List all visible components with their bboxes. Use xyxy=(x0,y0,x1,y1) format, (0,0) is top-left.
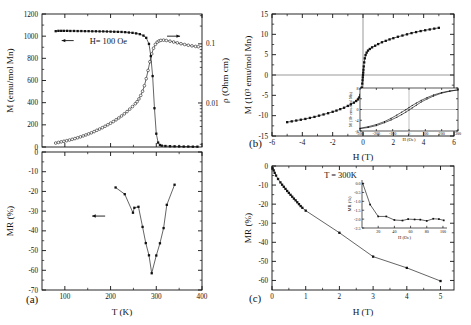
panel-a-label: (a) xyxy=(26,293,39,306)
m-vs-t-point xyxy=(117,31,119,33)
m-vs-h-point xyxy=(369,48,371,50)
panel-b-inset-point xyxy=(360,128,361,129)
rho-vs-t-point xyxy=(74,137,77,140)
panel-c-inset-ytick-label: -2.0 xyxy=(354,217,360,222)
mr-vs-h-point xyxy=(406,267,408,269)
rho-vs-t-point xyxy=(143,84,146,87)
mr-vs-h-point xyxy=(301,207,303,209)
m-vs-t-point xyxy=(187,145,189,147)
m-vs-t-point xyxy=(139,33,141,35)
panel-c-inset-ytick-label: 0.0 xyxy=(355,181,360,186)
m-vs-t-point xyxy=(80,30,82,32)
m-vs-t-point xyxy=(55,30,57,32)
mr-vs-h-point xyxy=(272,167,274,169)
m-vs-t-line xyxy=(56,31,198,147)
m-vs-h-point xyxy=(286,121,288,123)
rho-vs-t-point xyxy=(131,105,134,108)
m-vs-h-point xyxy=(291,120,293,122)
panel-c-inset-ytick-label: -2.5 xyxy=(354,226,360,231)
rho-vs-t-point xyxy=(112,120,115,123)
panel-a-bottom-frame xyxy=(42,152,202,290)
panel-b-inset-point xyxy=(396,115,397,116)
panel-b-inset-xtick-label: -200 xyxy=(373,131,381,136)
rho-vs-t-point xyxy=(71,138,74,141)
m-vs-h-point xyxy=(433,27,435,29)
panel-b-inset-point xyxy=(409,110,410,111)
m-vs-h-point xyxy=(362,71,364,73)
rho-vs-t-point xyxy=(115,118,118,121)
m-vs-h-point xyxy=(377,43,379,45)
rho-vs-t-point xyxy=(152,47,155,50)
rho-vs-t-point xyxy=(165,39,168,42)
m-vs-t-point xyxy=(87,30,89,32)
mr-vs-t-point xyxy=(151,272,153,274)
m-vs-t-point xyxy=(173,145,175,147)
m-vs-h-point xyxy=(339,108,341,110)
m-vs-h-point xyxy=(327,112,329,114)
mr-vs-t-line xyxy=(116,185,175,274)
panel-c-inset xyxy=(362,180,447,228)
panel-c-xtick-label: 1 xyxy=(304,293,308,301)
m-vs-t-point xyxy=(183,145,185,147)
m-vs-t-point xyxy=(155,133,157,135)
m-vs-t-point xyxy=(128,31,130,33)
rho-vs-t-point xyxy=(136,100,139,103)
panel-c-inset-ytick-label: -0.5 xyxy=(354,190,360,195)
panel-c-ytick-label: -50 xyxy=(258,258,268,266)
m-vs-t-point xyxy=(151,75,153,77)
panel-a-bottom-ytick-label: -60 xyxy=(28,267,38,275)
rho-vs-t-point xyxy=(90,131,93,134)
mr-vs-h-point xyxy=(281,184,283,186)
panel-b-ytick-label: -5 xyxy=(262,92,268,100)
m-vs-h-point xyxy=(410,32,412,34)
panel-a-bottom-xtick-label: 300 xyxy=(151,293,162,301)
m-vs-t-point xyxy=(145,37,147,39)
m-vs-t-point xyxy=(153,107,155,109)
panel-c-ytick-label: 0 xyxy=(264,163,268,171)
panel-b-inset-point xyxy=(421,100,422,101)
panel-b-inset-point xyxy=(384,121,385,122)
mr-vs-t-point xyxy=(173,184,175,186)
rho-vs-t-point xyxy=(162,39,165,42)
m-vs-h-point xyxy=(419,30,421,32)
panel-c-xtick-label: 2 xyxy=(338,293,342,301)
m-vs-t-point xyxy=(135,32,137,34)
panel-b-inset-point xyxy=(421,101,422,102)
panel-b-inset-ytick-label: 0 xyxy=(356,107,358,112)
panel-c-ytick-label: -40 xyxy=(258,239,268,247)
panel-b-inset-point xyxy=(426,99,427,100)
panel-c-inset-xtick-label: 100 xyxy=(440,229,446,234)
m-vs-h-point xyxy=(309,117,311,119)
panel-a-bottom-ytick-label: -50 xyxy=(28,247,38,255)
panel-b-xlabel: H (T) xyxy=(353,152,374,162)
rho-vs-t-point xyxy=(183,43,186,46)
rho-vs-t-point xyxy=(149,60,152,63)
panel-b-ytick-label: 0 xyxy=(264,72,268,80)
m-vs-t-point xyxy=(148,43,150,45)
m-vs-t-point xyxy=(91,30,93,32)
m-vs-t-point xyxy=(73,30,75,32)
mr-vs-h-point xyxy=(277,178,279,180)
m-vs-t-point xyxy=(142,34,144,36)
panel-a-top-y2tick-label: 0.1 xyxy=(206,40,215,48)
mr-vs-t-point xyxy=(148,254,150,256)
m-vs-h-point xyxy=(322,113,324,115)
m-vs-t-point xyxy=(60,30,62,32)
panel-a-bottom-ytick-label: -40 xyxy=(28,227,38,235)
panel-c-inset-ylabel: MR (%) xyxy=(347,196,352,212)
panel-c-inset-ytick-label: -1.0 xyxy=(354,199,360,204)
m-vs-h-point xyxy=(401,34,403,36)
rho-vs-t-point xyxy=(187,44,190,47)
m-vs-t-point xyxy=(69,30,71,32)
panel-c-label: (c) xyxy=(249,292,262,305)
panel-a-top-frame xyxy=(42,14,202,147)
panel-b-inset-xlabel: H (Oe) xyxy=(403,137,416,142)
m-vs-t-point xyxy=(109,30,111,32)
rho-vs-t-point xyxy=(65,139,68,142)
rho-vs-t-point xyxy=(106,123,109,126)
mr-vs-h-point xyxy=(439,280,441,282)
rho-vs-t-point xyxy=(85,134,88,137)
m-vs-t-point xyxy=(77,30,79,32)
m-vs-h-point xyxy=(318,115,320,117)
panel-b-inset-point xyxy=(458,89,459,90)
